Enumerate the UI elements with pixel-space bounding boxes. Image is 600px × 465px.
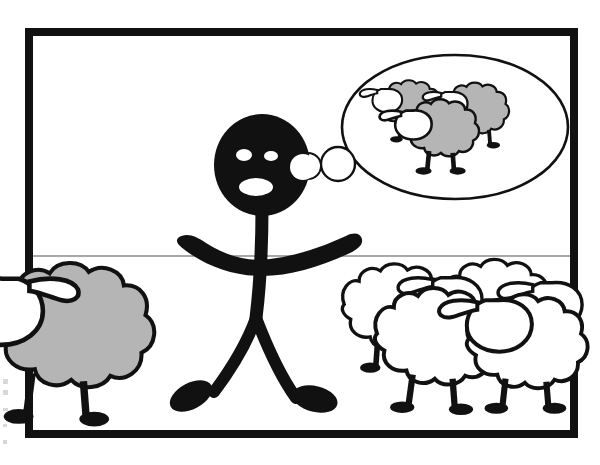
figure-eye-right (264, 151, 278, 161)
figure-ear-disc (290, 154, 316, 180)
thought-tail-circle-large (321, 147, 355, 181)
figure-mouth (239, 178, 273, 196)
cartoon-illustration (0, 0, 600, 465)
figure-eye-left (236, 149, 252, 161)
cartoon-panel-stage: Black sheep cartoon panel the black shee… (0, 0, 600, 465)
